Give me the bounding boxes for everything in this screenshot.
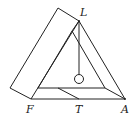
- label-F: F: [25, 103, 34, 116]
- label-L: L: [79, 6, 87, 19]
- pendulum-bob: [75, 75, 84, 84]
- label-T: T: [75, 103, 84, 116]
- segment-to-T: [58, 88, 79, 99]
- point-A: [124, 98, 126, 100]
- prism-outline: [10, 8, 125, 99]
- label-A: A: [120, 103, 129, 116]
- outer-prism-edge: [10, 8, 79, 99]
- point-L: [78, 20, 80, 22]
- inner-right-edge: [72, 31, 105, 88]
- pendulum: [75, 21, 84, 84]
- triangular-prism-pendulum-diagram: L F T A: [0, 0, 138, 122]
- edge-LA: [79, 21, 125, 99]
